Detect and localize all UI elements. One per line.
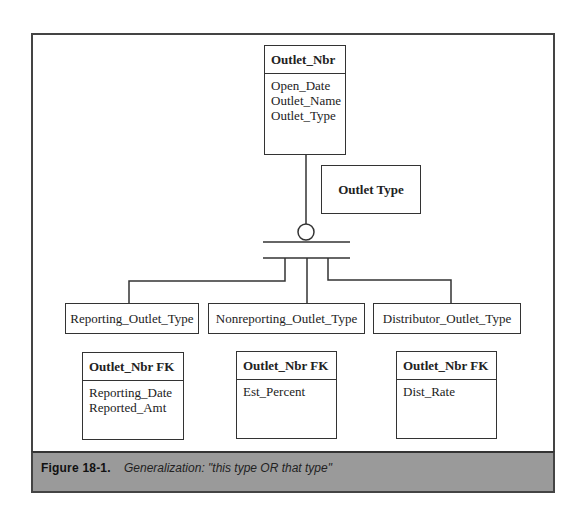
figure-number: Figure 18-1. bbox=[41, 461, 111, 475]
branch-line-reporting bbox=[129, 258, 285, 303]
category-circle-icon bbox=[298, 224, 314, 240]
discriminator-text: Outlet Type bbox=[338, 182, 404, 198]
entity-attributes: Open_Date Outlet_Name Outlet_Type bbox=[265, 74, 345, 123]
subtype-distributor-outlet-type: Distributor_Outlet_Type bbox=[373, 303, 521, 334]
subtype-name: Distributor_Outlet_Type bbox=[383, 311, 511, 327]
entity-attributes: Dist_Rate bbox=[397, 380, 496, 399]
supertype-entity-outlet: Outlet_Nbr Open_Date Outlet_Name Outlet_… bbox=[264, 45, 346, 155]
subtype-entity-reporting: Outlet_Nbr FK Reporting_Date Reported_Am… bbox=[82, 352, 184, 440]
entity-key: Outlet_Nbr FK bbox=[397, 352, 496, 380]
entity-attributes: Est_Percent bbox=[237, 380, 336, 399]
entity-key: Outlet_Nbr FK bbox=[83, 353, 183, 381]
entity-key: Outlet_Nbr bbox=[265, 46, 345, 74]
attribute-reporting-date: Reporting_Date bbox=[89, 385, 183, 400]
entity-key: Outlet_Nbr FK bbox=[237, 352, 336, 380]
subtype-nonreporting-outlet-type: Nonreporting_Outlet_Type bbox=[208, 303, 365, 334]
subtype-name: Nonreporting_Outlet_Type bbox=[216, 311, 357, 327]
attribute-dist-rate: Dist_Rate bbox=[403, 384, 496, 399]
subtype-name: Reporting_Outlet_Type bbox=[70, 311, 193, 327]
attribute-est-percent: Est_Percent bbox=[243, 384, 336, 399]
branch-line-distributor bbox=[328, 258, 451, 303]
attribute-outlet-name: Outlet_Name bbox=[271, 93, 345, 108]
subtype-reporting-outlet-type: Reporting_Outlet_Type bbox=[65, 303, 199, 334]
attribute-open-date: Open_Date bbox=[271, 78, 345, 93]
attribute-reported-amt: Reported_Amt bbox=[89, 400, 183, 415]
entity-attributes: Reporting_Date Reported_Amt bbox=[83, 381, 183, 415]
figure-caption-text: Generalization: "this type OR that type" bbox=[124, 461, 332, 475]
discriminator-label: Outlet Type bbox=[321, 165, 421, 214]
subtype-entity-distributor: Outlet_Nbr FK Dist_Rate bbox=[396, 351, 497, 439]
subtype-entity-nonreporting: Outlet_Nbr FK Est_Percent bbox=[236, 351, 337, 439]
figure-caption: Figure 18-1. Generalization: "this type … bbox=[31, 451, 555, 493]
attribute-outlet-type: Outlet_Type bbox=[271, 108, 345, 123]
